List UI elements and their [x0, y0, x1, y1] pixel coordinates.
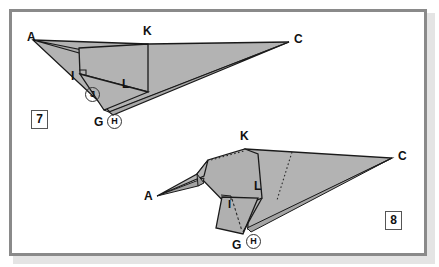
fig7-label-g: G	[94, 116, 103, 128]
fig7-label-a: A	[27, 31, 36, 43]
fig8-label-a: A	[144, 190, 153, 202]
fig8-label-k: K	[240, 130, 249, 142]
step-number-8: 8	[385, 211, 402, 230]
fig7-label-i: I	[71, 70, 74, 82]
fig8-beak-lower	[157, 178, 204, 196]
fig8-label-l: L	[254, 180, 261, 192]
diagram-artwork	[0, 0, 439, 267]
fig8-label-c: C	[398, 150, 407, 162]
fig7-label-k: K	[143, 25, 152, 37]
fig7-label-j-circled: J	[85, 87, 100, 102]
fig7-label-l: L	[122, 78, 129, 90]
fig8-label-h-circled: H	[246, 234, 261, 249]
step-number-7: 7	[31, 110, 48, 129]
fig7-label-h-circled: H	[107, 114, 122, 129]
fig8-right-wing	[245, 149, 392, 229]
fig8-label-i: I	[228, 198, 231, 210]
diagram-page: 7 A K C I L G J H 8 K C A L I G H	[0, 0, 439, 267]
figure-8-artwork	[157, 149, 392, 234]
fig7-label-c: C	[294, 33, 303, 45]
fig8-label-g: G	[232, 239, 241, 251]
